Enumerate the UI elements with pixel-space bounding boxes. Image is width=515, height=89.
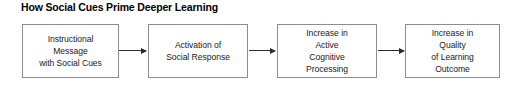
flowchart-figure: How Social Cues Prime Deeper Learning In… <box>0 0 515 89</box>
arrow-head <box>270 48 276 54</box>
flow-node-increase-quality-learning-outcome: Increase in Quality of Learning Outcome <box>405 24 500 78</box>
flow-node-instructional-message: Instructional Message with Social Cues <box>22 24 119 78</box>
flow-node-increase-active-cognitive-processing: Increase in Active Cognitive Processing <box>277 24 377 78</box>
arrow-head <box>141 48 147 54</box>
flow-node-label: Increase in Active Cognitive Processing <box>303 27 351 75</box>
arrow-right-icon <box>119 50 146 52</box>
arrow-right-icon <box>249 50 275 52</box>
flow-node-activation-social-response: Activation of Social Response <box>148 24 248 78</box>
flow-node-label: Increase in Quality of Learning Outcome <box>428 27 476 75</box>
figure-title: How Social Cues Prime Deeper Learning <box>21 1 218 14</box>
flowchart-row: Instructional Message with Social Cues A… <box>0 24 515 78</box>
arrow-right-icon <box>378 50 404 52</box>
flow-node-label: Activation of Social Response <box>163 39 233 63</box>
flow-node-label: Instructional Message with Social Cues <box>36 33 105 69</box>
